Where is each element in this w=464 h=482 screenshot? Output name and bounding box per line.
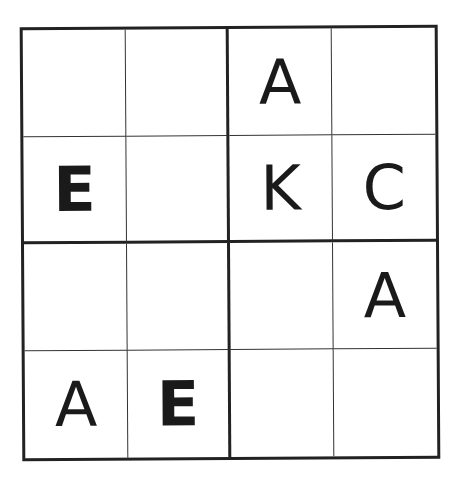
cell-r3c1[interactable]: [24, 244, 128, 352]
cell-r1c2[interactable]: [126, 29, 230, 137]
cell-r3c4[interactable]: A: [333, 242, 437, 350]
cell-r4c3[interactable]: [231, 349, 335, 457]
cell-r1c4[interactable]: [332, 28, 436, 136]
cell-r2c1[interactable]: E: [23, 137, 127, 245]
cell-r1c1[interactable]: [23, 30, 127, 138]
puzzle-grid: A E K C A A E: [20, 25, 441, 462]
cell-r1c3[interactable]: A: [229, 28, 333, 136]
cell-r4c1[interactable]: A: [25, 351, 129, 459]
cell-r3c3[interactable]: [230, 242, 334, 350]
cell-r4c2[interactable]: E: [128, 350, 232, 458]
cell-r2c3[interactable]: K: [229, 135, 333, 243]
cell-r2c2[interactable]: [126, 136, 230, 244]
cell-r2c4[interactable]: C: [332, 135, 436, 243]
cell-r3c2[interactable]: [127, 243, 231, 351]
cell-r4c4[interactable]: [334, 349, 438, 457]
